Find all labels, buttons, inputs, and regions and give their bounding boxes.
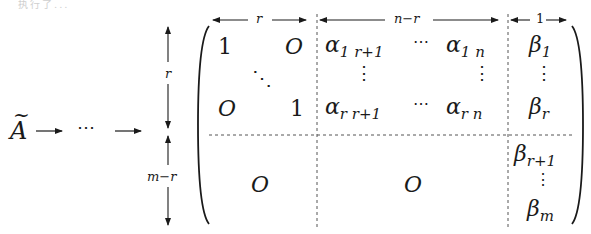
identity-diag-dots: ⋱	[252, 68, 272, 88]
beta-bottom-vdots: ⋮	[535, 172, 551, 188]
alpha-row1-first: α1 r+1	[325, 34, 383, 60]
ellipsis: ⋯	[77, 118, 95, 136]
alpha-vdots-left: ⋮	[355, 64, 373, 82]
side-label-m-r: m−r	[145, 170, 178, 183]
beta-r-plus-1: βr+1	[514, 143, 556, 169]
top-label-n-r: n−r	[392, 12, 421, 25]
beta-top-vdots: ⋮	[535, 64, 553, 82]
identity-bottom-right: 1	[290, 98, 304, 120]
matrix-a-tilde: ~ A	[10, 119, 27, 143]
beta-r: βr	[529, 96, 549, 122]
alpha-vdots-right: ⋮	[473, 64, 491, 82]
left-parenthesis	[198, 26, 209, 224]
zero-block-middle: O	[404, 174, 422, 196]
beta-m: βm	[527, 198, 554, 224]
alpha-rowr-dots: ⋯	[413, 96, 429, 112]
tilde-accent: ~	[13, 105, 30, 125]
side-label-r: r	[163, 67, 173, 80]
identity-top-left: 1	[218, 36, 232, 58]
zero-block-left: O	[251, 174, 269, 196]
right-parenthesis	[572, 26, 583, 224]
alpha-rowr-first: αr r+1	[325, 96, 381, 122]
identity-bottom-left: O	[218, 98, 236, 120]
alpha-row1-last: α1 n	[446, 34, 485, 60]
top-label-1: 1	[534, 12, 546, 25]
top-label-r: r	[254, 12, 264, 25]
alpha-rowr-last: αr n	[446, 96, 482, 122]
alpha-row1-dots: ⋯	[413, 34, 429, 50]
beta-1: β1	[529, 34, 551, 60]
identity-top-right: O	[285, 36, 303, 58]
